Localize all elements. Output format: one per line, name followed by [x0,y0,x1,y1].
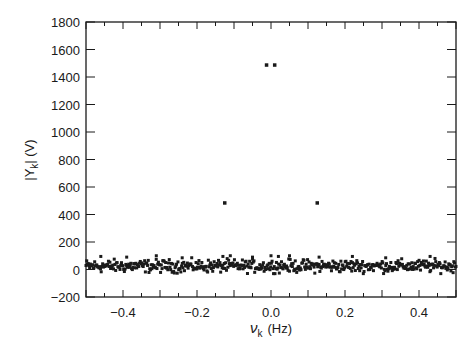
data-point [330,269,333,272]
data-point [396,268,399,271]
data-point [389,261,392,264]
data-point [227,259,230,262]
x-tick-label: −0.2 [184,305,210,320]
data-point [295,271,298,274]
data-point [300,268,303,271]
data-point [429,269,432,272]
data-point [439,262,442,265]
data-point [247,263,250,266]
data-point [412,265,415,268]
data-point [447,266,450,269]
data-point [159,271,162,274]
data-point [363,270,366,273]
data-point [334,262,337,265]
data-point [160,263,163,266]
data-point [400,257,403,260]
data-point [360,266,363,269]
data-point [147,271,150,274]
data-point [241,258,244,261]
data-point [116,261,119,264]
x-tick-label: −0.4 [110,305,136,320]
y-tick-label: 400 [58,208,80,223]
data-point [288,270,291,273]
data-point [114,269,117,272]
data-point [155,258,158,261]
data-point [268,268,271,271]
data-point [176,272,179,275]
data-point [99,255,102,258]
data-point [397,259,400,262]
data-point [291,265,294,268]
data-point [278,272,281,275]
data-point [339,270,342,273]
y-tick-label: 1000 [51,125,80,140]
data-point [380,267,383,270]
data-point [167,262,170,265]
data-point [260,267,263,270]
data-point [372,269,375,272]
data-point [239,267,242,270]
data-point [273,63,277,67]
data-point [286,266,289,269]
data-point [113,258,116,261]
x-tick-label: 0.4 [410,305,428,320]
data-point [182,261,185,264]
scatter-chart: −0.4−0.20.00.20.4 −200020040060080010001… [0,0,476,357]
data-point [171,263,174,266]
data-point [444,260,447,263]
data-point [321,260,324,263]
data-point [429,255,432,258]
data-point [349,267,352,270]
data-point [200,261,203,264]
data-point [144,270,147,273]
data-point [289,258,292,261]
x-axis-label: νk(Hz) [250,319,292,339]
data-point [288,254,291,257]
data-point [410,261,413,264]
data-point [224,261,227,264]
data-point [187,267,190,270]
data-point [419,269,422,272]
data-point [213,260,216,263]
data-point [155,267,158,270]
data-point [336,266,339,269]
data-point [233,258,236,261]
data-point [168,258,171,261]
data-point [313,272,316,275]
data-point [166,268,169,271]
data-point [129,262,132,265]
data-point [368,263,371,266]
data-point [452,271,455,274]
y-tick-label: −200 [51,290,80,305]
data-point [356,261,359,264]
data-point [169,268,172,271]
data-point [108,261,111,264]
data-point [381,261,384,264]
data-point [245,260,248,263]
y-tick-label: 1400 [51,70,80,85]
data-point [451,264,454,267]
data-point [328,263,331,266]
x-tick-label: 0.2 [336,305,354,320]
data-point [318,263,321,266]
data-point [262,261,265,264]
data-point [434,260,437,263]
data-point [225,269,228,272]
data-point [277,255,280,258]
x-axis-ticks: −0.4−0.20.00.20.4 [86,22,456,320]
data-point [251,256,254,259]
data-point [246,272,249,275]
y-tick-label: 600 [58,180,80,195]
data-point [253,271,256,274]
data-point [382,272,385,275]
data-point [309,267,312,270]
data-point [197,262,200,265]
data-point [229,254,232,257]
data-point [265,63,269,67]
data-point [339,260,342,263]
data-point [91,263,94,266]
data-point [206,271,209,274]
y-tick-label: 0 [73,263,80,278]
data-point [395,262,398,265]
y-tick-label: 1800 [51,15,80,30]
